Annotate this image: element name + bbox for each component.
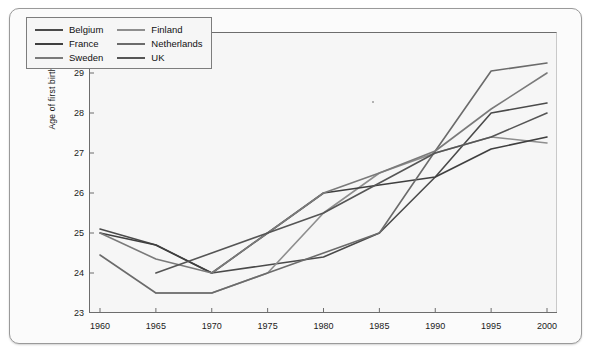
legend-label-uk: UK bbox=[151, 52, 164, 63]
x-axis-tick: 1995 bbox=[481, 321, 501, 331]
y-axis-tick: 29 bbox=[74, 68, 84, 78]
screenshot-root: 2324252627282930196019651970197519801985… bbox=[0, 0, 593, 354]
legend-label-sweden: Sweden bbox=[69, 52, 103, 63]
series-line-sweden bbox=[100, 73, 547, 273]
legend-item-sweden: Sweden bbox=[35, 52, 103, 63]
chart-legend: Belgium Finland France Netherlands Swede… bbox=[26, 17, 212, 69]
legend-swatch-netherlands bbox=[117, 43, 145, 45]
legend-item-finland: Finland bbox=[117, 24, 202, 35]
y-axis-tick: 28 bbox=[74, 108, 84, 118]
legend-swatch-uk bbox=[117, 57, 145, 59]
series-line-finland bbox=[156, 137, 547, 293]
legend-item-belgium: Belgium bbox=[35, 24, 103, 35]
y-axis-tick: 24 bbox=[74, 268, 84, 278]
y-axis-tick: 27 bbox=[74, 148, 84, 158]
chart-lines bbox=[90, 33, 557, 313]
plot-area: 2324252627282930196019651970197519801985… bbox=[89, 32, 557, 313]
legend-item-uk: UK bbox=[117, 52, 202, 63]
legend-label-belgium: Belgium bbox=[69, 24, 103, 35]
legend-swatch-france bbox=[35, 43, 63, 45]
x-axis-tick: 2000 bbox=[537, 321, 557, 331]
series-line-netherlands bbox=[100, 63, 547, 293]
legend-swatch-belgium bbox=[35, 29, 63, 31]
artifact-speck bbox=[372, 101, 374, 103]
y-axis-tick: 26 bbox=[74, 188, 84, 198]
legend-item-france: France bbox=[35, 38, 103, 49]
legend-label-netherlands: Netherlands bbox=[151, 38, 202, 49]
x-axis-tick: 1990 bbox=[425, 321, 445, 331]
y-axis-tick: 23 bbox=[74, 308, 84, 318]
x-axis-tick: 1980 bbox=[313, 321, 333, 331]
x-axis-tick: 1970 bbox=[202, 321, 222, 331]
legend-swatch-finland bbox=[117, 29, 145, 31]
y-axis-tick: 25 bbox=[74, 228, 84, 238]
legend-label-france: France bbox=[69, 38, 99, 49]
series-line-belgium bbox=[100, 103, 547, 273]
legend-swatch-sweden bbox=[35, 57, 63, 59]
chart-card: 2324252627282930196019651970197519801985… bbox=[9, 8, 582, 344]
x-axis-tick: 1965 bbox=[146, 321, 166, 331]
x-axis-tick: 1960 bbox=[90, 321, 110, 331]
legend-item-netherlands: Netherlands bbox=[117, 38, 202, 49]
x-axis-tick: 1975 bbox=[258, 321, 278, 331]
legend-label-finland: Finland bbox=[151, 24, 182, 35]
x-axis-tick: 1985 bbox=[369, 321, 389, 331]
